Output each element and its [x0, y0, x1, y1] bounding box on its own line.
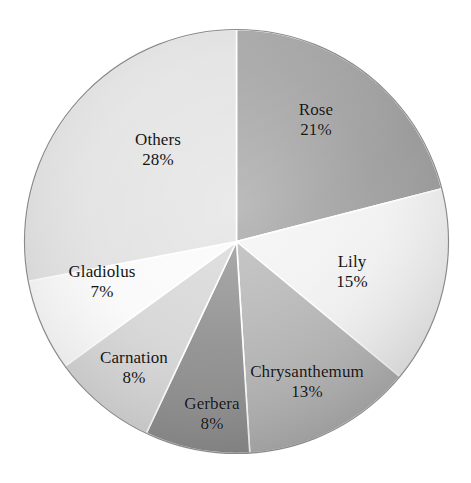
slice-value-others: 28%: [110, 150, 206, 170]
slice-label-rose: Rose 21%: [268, 100, 364, 140]
slice-value-lily: 15%: [313, 272, 391, 292]
slice-name-chrysanthemum: Chrysanthemum: [232, 362, 382, 382]
slice-value-carnation: 8%: [76, 368, 192, 388]
slice-label-others: Others 28%: [110, 130, 206, 170]
slice-label-gerbera: Gerbera 8%: [160, 394, 264, 434]
slice-name-gladiolus: Gladiolus: [44, 262, 160, 282]
slice-value-rose: 21%: [268, 120, 364, 140]
slice-name-lily: Lily: [313, 252, 391, 272]
slice-name-gerbera: Gerbera: [160, 394, 264, 414]
slice-label-carnation: Carnation 8%: [76, 348, 192, 388]
slice-label-lily: Lily 15%: [313, 252, 391, 292]
slice-name-carnation: Carnation: [76, 348, 192, 368]
slice-value-gerbera: 8%: [160, 414, 264, 434]
slice-label-gladiolus: Gladiolus 7%: [44, 262, 160, 302]
slice-value-gladiolus: 7%: [44, 282, 160, 302]
slice-name-others: Others: [110, 130, 206, 150]
slice-name-rose: Rose: [268, 100, 364, 120]
pie-chart: Rose 21% Lily 15% Chrysanthemum 13% Gerb…: [0, 0, 471, 483]
